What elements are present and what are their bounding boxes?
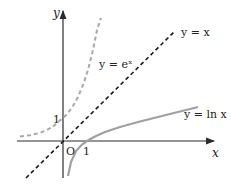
identity-line xyxy=(26,32,174,178)
identity-line-label: y = x xyxy=(180,26,210,39)
exp-curve-label: y = eˣ xyxy=(98,58,133,71)
y-axis-label: y xyxy=(52,6,60,20)
function-graph: y x O 1 1 y = eˣ y = x y = ln x xyxy=(0,0,231,190)
ln-curve-label: y = ln x xyxy=(183,108,228,121)
x-tick-label: 1 xyxy=(83,145,90,158)
origin-label: O xyxy=(66,145,75,158)
x-axis-label: x xyxy=(212,146,219,160)
exp-curve xyxy=(20,18,101,137)
y-tick-label: 1 xyxy=(53,113,60,126)
